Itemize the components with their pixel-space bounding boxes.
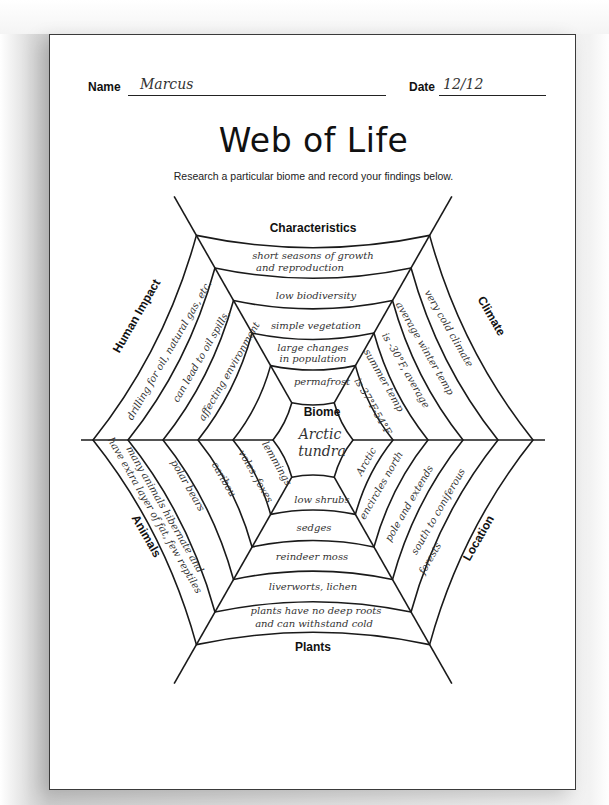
- plants-entry-2[interactable]: sedges: [297, 522, 332, 533]
- animals-entry-3[interactable]: caribou: [210, 460, 239, 499]
- characteristics-entry-4[interactable]: low biodiversity: [276, 290, 357, 301]
- characteristics-entry-2a[interactable]: large changes: [277, 342, 348, 353]
- biome-label: Biome: [304, 405, 341, 419]
- biome-value-line2: tundra: [298, 443, 346, 459]
- web-diagram: Characteristics Plants Climate Location …: [0, 0, 609, 805]
- plants-entry-1[interactable]: low shrubs: [294, 494, 349, 505]
- category-location: Location: [460, 513, 497, 563]
- category-plants: Plants: [295, 640, 331, 654]
- category-climate: Climate: [475, 294, 509, 339]
- animals-entry-4[interactable]: polar bears: [169, 458, 207, 513]
- plants-entry-4[interactable]: liverworts, lichen: [269, 581, 357, 592]
- animals-entry-5a[interactable]: many animals hibernate and: [124, 444, 206, 574]
- characteristics-entry-5a[interactable]: short seasons of growth: [252, 250, 374, 261]
- biome-value-line1: Arctic: [297, 426, 342, 442]
- characteristics-entry-5b[interactable]: and reproduction: [256, 262, 344, 273]
- characteristics-entry-2b[interactable]: in population: [280, 353, 347, 364]
- characteristics-entry-3[interactable]: simple vegetation: [271, 320, 361, 331]
- characteristics-entry-1[interactable]: permafrost: [294, 376, 351, 387]
- category-characteristics: Characteristics: [270, 221, 357, 235]
- plants-entry-5b[interactable]: and can withstand cold: [255, 618, 373, 629]
- plants-entry-5a[interactable]: plants have no deep roots: [251, 605, 382, 616]
- plants-entry-3[interactable]: reindeer moss: [276, 551, 348, 562]
- location-entry-1[interactable]: Arctic: [353, 445, 378, 478]
- animals-entry-5b[interactable]: have extra layer of fat, few reptiles: [106, 435, 205, 595]
